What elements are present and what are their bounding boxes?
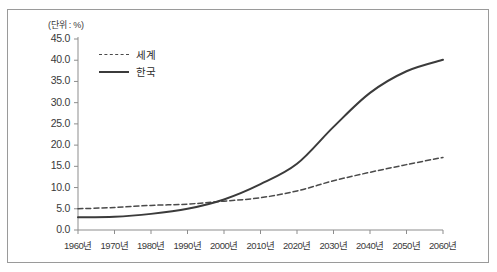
y-axis-tick-label: 5.0 [36, 202, 70, 214]
y-axis-tick-label: 0.0 [36, 223, 70, 235]
x-axis-tick-label: 2030년 [319, 238, 347, 252]
x-axis-tick-label: 2000년 [210, 238, 238, 252]
y-axis-tick-label: 40.0 [36, 53, 70, 65]
legend-line-swatch-dashed [99, 50, 129, 60]
y-axis-tick-label: 20.0 [36, 138, 70, 150]
legend-label: 세계 [136, 47, 155, 62]
x-axis-tick-label: 1970년 [100, 238, 128, 252]
series-layer [78, 60, 443, 217]
x-axis-tick-label: 1980년 [137, 238, 165, 252]
y-axis-tick-label: 35.0 [36, 74, 70, 86]
x-axis-tick-label: 2060년 [429, 238, 457, 252]
y-axis-tick-label: 15.0 [36, 159, 70, 171]
series-line-2 [78, 60, 443, 217]
y-axis-tick-label: 30.0 [36, 96, 70, 108]
legend-label: 한국 [136, 64, 155, 79]
legend-item-1: 세계 [99, 48, 155, 61]
y-axis-tick-label: 45.0 [36, 32, 70, 44]
plot-canvas [0, 0, 497, 272]
x-axis-tick-label: 2040년 [356, 238, 384, 252]
x-axis-tick-label: 1990년 [173, 238, 201, 252]
x-axis-tick-label: 1960년 [64, 238, 92, 252]
y-axis-tick-label: 25.0 [36, 117, 70, 129]
chart-legend: 세계한국 [99, 48, 155, 78]
x-axis-tick-label: 2050년 [392, 238, 420, 252]
x-axis-tick-label: 2010년 [246, 238, 274, 252]
legend-item-2: 한국 [99, 65, 155, 78]
legend-line-swatch-solid [99, 67, 129, 77]
x-axis-tick-label: 2020년 [283, 238, 311, 252]
chart-figure: (단위 : %) 45.040.035.030.025.020.015.010.… [0, 0, 497, 272]
y-axis-tick-label: 10.0 [36, 181, 70, 193]
